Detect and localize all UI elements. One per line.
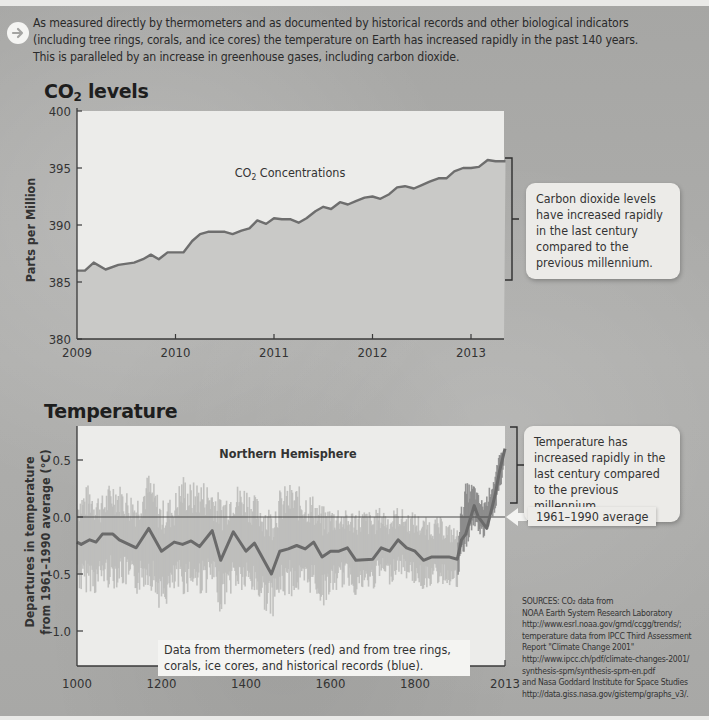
svg-text:0.5: 0.5 [52, 453, 71, 468]
temperature-note-line-1: Data from thermometers (red) and from tr… [164, 642, 464, 658]
temperature-data-note: Data from thermometers (red) and from tr… [158, 640, 470, 676]
sources-line-7: synthesis-spm/synthesis-spm-en.pdf [522, 666, 707, 678]
temperature-note-line-2: corals, ice cores, and historical record… [164, 658, 464, 674]
temperature-y-axis-label-line2: from 1961–1990 average (°C) [38, 449, 53, 634]
temperature-bracket [510, 427, 524, 503]
svg-text:1600: 1600 [316, 676, 346, 691]
baseline-average-label: 1961–1990 average [528, 507, 656, 526]
sources-line-9: http://data.giss.nasa.gov/gistemp/graphs… [522, 689, 707, 701]
svg-text:2013: 2013 [490, 676, 520, 691]
sources-line-3: http://www.esrl.noaa.gov/gmd/ccgg/trends… [522, 619, 707, 631]
sources-line-8: and Nasa Goddard Institute for Space Stu… [522, 677, 707, 689]
sources-text: SOURCES: CO₂ data from NOAA Earth System… [522, 596, 707, 700]
temperature-y-axis-label-line1: Departures in temperature [22, 456, 37, 628]
sources-line-5: Report "Climate Change 2001" [522, 642, 707, 654]
svg-text:0.0: 0.0 [52, 510, 71, 525]
temperature-annotation: Northern Hemisphere [219, 446, 357, 461]
svg-text:1800: 1800 [400, 676, 430, 691]
sources-line-4: temperature data from IPCC Third Assessm… [522, 631, 707, 643]
sources-line-6: http://www.ipcc.ch/pdf/climate-changes-2… [522, 654, 707, 666]
svg-text:1000: 1000 [62, 676, 92, 691]
sources-line-2: NOAA Earth System Research Laboratory [522, 608, 707, 620]
svg-text:1400: 1400 [231, 676, 261, 691]
svg-text:1200: 1200 [147, 676, 177, 691]
sources-line-1: SOURCES: CO₂ data from [522, 596, 707, 608]
